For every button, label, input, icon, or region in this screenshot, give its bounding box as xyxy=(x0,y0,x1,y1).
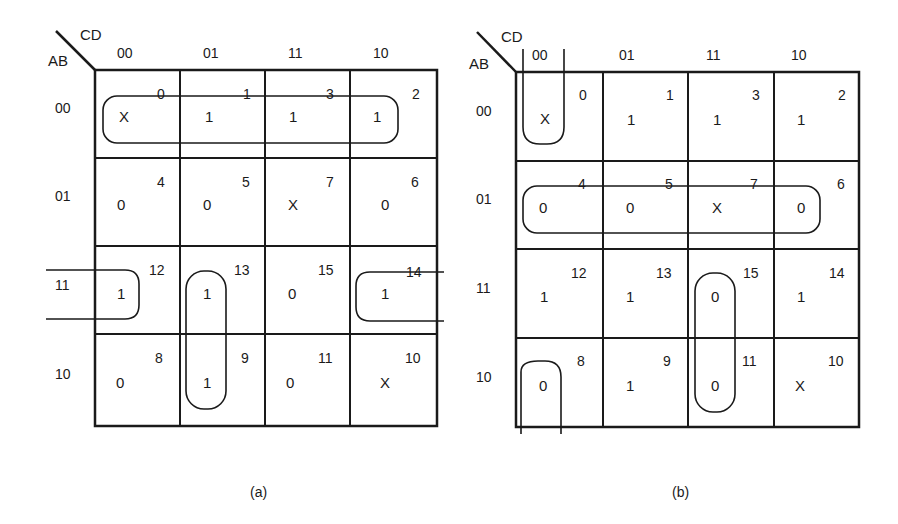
cell-value: 1 xyxy=(626,288,634,305)
minterm-index: 13 xyxy=(656,265,672,281)
cell-value: 1 xyxy=(627,111,635,128)
group-wrap-top xyxy=(523,49,564,144)
cell-value: X xyxy=(540,110,550,127)
minterm-index: 5 xyxy=(665,176,673,192)
cell-value: 0 xyxy=(711,288,719,305)
row-label: 11 xyxy=(476,280,491,296)
figure-caption: (b) xyxy=(672,484,689,500)
cell-value: 1 xyxy=(626,377,634,394)
cell-value: 0 xyxy=(626,199,634,216)
minterm-index: 14 xyxy=(829,265,845,281)
minterm-index: 8 xyxy=(577,353,585,369)
cell-value: 0 xyxy=(797,199,805,216)
cell-value: X xyxy=(712,199,722,216)
group-wrap-bottom xyxy=(521,361,561,434)
cell-value: X xyxy=(795,377,805,394)
minterm-index: 10 xyxy=(828,353,844,369)
minterm-index: 12 xyxy=(571,265,587,281)
cell-value: 0 xyxy=(539,377,547,394)
cell-value: 0 xyxy=(539,199,547,216)
group-row-01 xyxy=(523,186,820,233)
kmap-b-lines xyxy=(0,0,898,524)
cell-value: 1 xyxy=(713,111,721,128)
col-label: 10 xyxy=(791,47,807,63)
row-label: 01 xyxy=(476,191,492,207)
minterm-index: 0 xyxy=(579,87,587,103)
cell-value: 1 xyxy=(797,111,805,128)
minterm-index: 15 xyxy=(743,265,759,281)
minterm-index: 2 xyxy=(838,87,846,103)
minterm-index: 4 xyxy=(578,176,586,192)
minterm-index: 1 xyxy=(666,87,674,103)
minterm-index: 3 xyxy=(752,87,760,103)
kmap-b: CD AB 00 01 11 10 00 01 11 10 0 X 1 1 3 … xyxy=(0,0,898,524)
minterm-index: 6 xyxy=(837,176,845,192)
col-label: 00 xyxy=(532,47,548,63)
col-label: 01 xyxy=(619,47,635,63)
minterm-index: 7 xyxy=(750,176,758,192)
col-label: 11 xyxy=(706,47,721,63)
row-var-label: AB xyxy=(469,55,489,72)
cell-value: 1 xyxy=(797,288,805,305)
row-label: 10 xyxy=(476,369,492,385)
cell-value: 1 xyxy=(540,288,548,305)
minterm-index: 9 xyxy=(663,353,671,369)
row-label: 00 xyxy=(476,103,492,119)
col-var-label: CD xyxy=(501,28,523,45)
cell-value: 0 xyxy=(711,377,719,394)
minterm-index: 11 xyxy=(742,353,757,369)
